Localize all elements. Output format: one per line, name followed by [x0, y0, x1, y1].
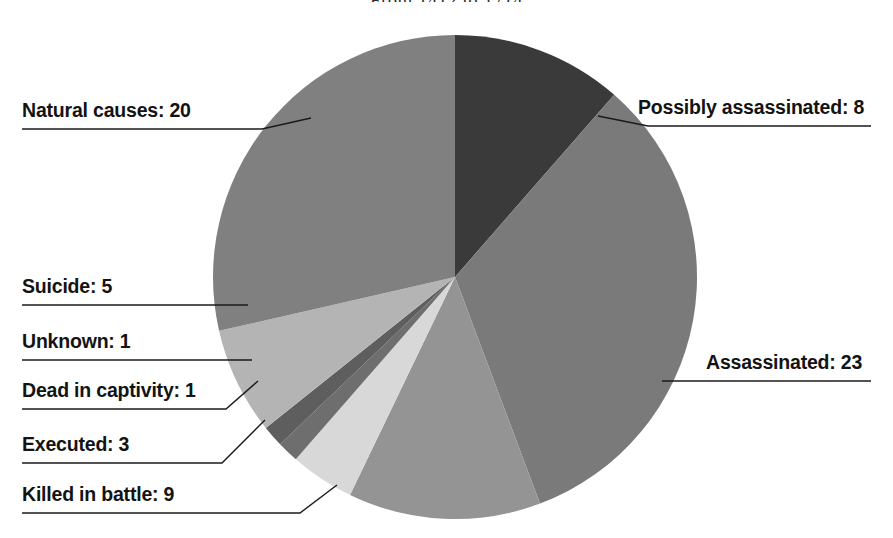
callout-executed: Executed: 3: [22, 434, 129, 454]
pie-chart: [0, 0, 893, 538]
callout-dead-in-captivity: Dead in captivity: 1: [22, 380, 196, 400]
callout-suicide: Suicide: 5: [22, 276, 112, 296]
chart-canvas: From 1412 to 1714 Natural causes: 20 Pos…: [0, 0, 893, 538]
callout-possibly-assassinated: Possibly assassinated: 8: [638, 97, 864, 117]
callout-killed-in-battle: Killed in battle: 9: [22, 484, 174, 504]
callout-assassinated: Assassinated: 23: [706, 352, 862, 372]
callout-unknown: Unknown: 1: [22, 331, 131, 351]
callout-natural-causes: Natural causes: 20: [22, 100, 191, 120]
